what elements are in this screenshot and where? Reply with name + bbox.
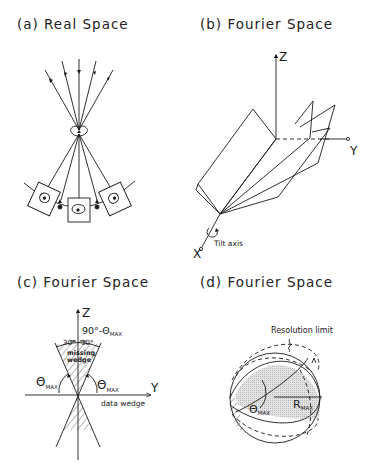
label-resolution-limit: Resolution limit bbox=[271, 326, 333, 335]
label-tilt-axis: Tilt axis bbox=[213, 239, 243, 248]
panel-b-diagram bbox=[196, 56, 350, 251]
label-y: Y bbox=[349, 144, 358, 158]
label-right-30: 30° bbox=[81, 339, 93, 347]
label-z: Z bbox=[279, 50, 287, 64]
incident-beams bbox=[45, 59, 113, 130]
label-x: X bbox=[193, 247, 201, 261]
detector-center bbox=[68, 198, 90, 222]
label-left-30: 30° bbox=[63, 339, 75, 347]
label-data-wedge: data wedge bbox=[101, 399, 146, 408]
resolution-leader bbox=[288, 339, 290, 352]
label-angle-top: 90°-ΘMAX bbox=[82, 325, 122, 337]
detector-right bbox=[99, 182, 132, 216]
fourier-planes bbox=[196, 101, 335, 214]
label-z-c: Z bbox=[82, 306, 90, 320]
label-theta-left: ΘMAX bbox=[36, 375, 58, 390]
detector-left bbox=[28, 182, 61, 216]
label-wedge: wedge bbox=[67, 356, 92, 364]
label-theta-right: ΘMAX bbox=[97, 378, 119, 393]
label-y-c: Y bbox=[150, 381, 159, 395]
panel-a-diagram bbox=[24, 59, 135, 222]
figure-canvas: Z Y X Tilt axis Z Y 90°-ΘMAX 30° 30° mis… bbox=[0, 0, 366, 466]
panel-d-diagram bbox=[229, 339, 322, 443]
